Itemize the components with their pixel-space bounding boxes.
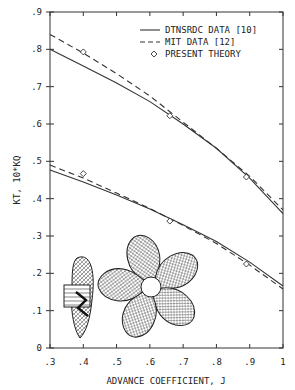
legend-item: DTNSRDC DATA [10]: [165, 25, 257, 35]
y-tick-label: .4: [31, 194, 42, 204]
x-axis-label: ADVANCE COEFFICIENT, J: [106, 376, 225, 386]
y-axis-label: KT, 10*KQ: [12, 156, 22, 205]
x-tick-label: 1: [280, 357, 285, 367]
propeller-illustration: [64, 232, 204, 342]
legend-item: PRESENT THEORY: [165, 49, 241, 59]
y-tick-label: .5: [31, 156, 42, 166]
chart: .3.4.5.6.7.8.910.1.2.3.4.5.6.7.8.9 DTNSR…: [0, 0, 295, 390]
y-tick-label: .3: [31, 231, 42, 241]
x-tick-label: .6: [144, 357, 155, 367]
x-tick-label: .5: [111, 357, 122, 367]
x-tick-label: .7: [178, 357, 189, 367]
series-line: [50, 34, 283, 210]
legend: DTNSRDC DATA [10]MIT DATA [12]PRESENT TH…: [140, 25, 257, 59]
y-tick-label: 0: [37, 343, 42, 353]
series-line: [50, 49, 283, 213]
x-tick-label: .4: [78, 357, 89, 367]
data-series: [50, 34, 283, 289]
x-tick-label: .9: [244, 357, 255, 367]
x-tick-label: .3: [45, 357, 56, 367]
y-tick-label: .9: [31, 7, 42, 17]
legend-item: MIT DATA [12]: [165, 37, 235, 47]
x-tick-label: .8: [211, 357, 222, 367]
y-tick-label: .8: [31, 44, 42, 54]
y-tick-label: .6: [31, 119, 42, 129]
y-tick-label: .2: [31, 268, 42, 278]
theory-marker: [80, 171, 86, 177]
y-tick-label: .1: [31, 306, 42, 316]
y-tick-label: .7: [31, 82, 42, 92]
